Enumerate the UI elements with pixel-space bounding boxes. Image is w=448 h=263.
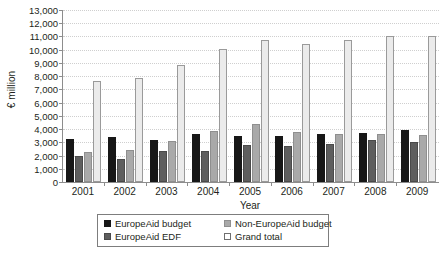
y-tick-mark [59,169,62,170]
y-tick-label: 3,000 [14,138,58,147]
legend-item[interactable]: EuropeAid EDF [104,231,222,242]
bar [326,144,334,182]
bar [293,132,301,182]
bar [201,151,209,182]
x-axis-tick-labels: 200120022003200420052006200720082009 [62,186,438,197]
y-tick-label: 6,000 [14,98,58,107]
bar [243,145,251,182]
bar [344,40,352,182]
y-tick-mark [59,89,62,90]
x-tick-label: 2004 [187,186,229,197]
y-tick-label: 7,000 [14,85,58,94]
bar [159,151,167,182]
bar [135,78,143,182]
bar [284,146,292,182]
y-tick-label: 5,000 [14,111,58,120]
bar-group [355,10,397,182]
x-tick-label: 2007 [313,186,355,197]
legend-label: EuropeAid EDF [115,231,181,242]
bar [359,133,367,182]
x-tick-label: 2002 [104,186,146,197]
bar [219,49,227,182]
legend-label: EuropeAid budget [115,218,191,229]
y-tick-label: 10,000 [14,45,58,54]
bar [317,134,325,182]
bar [410,142,418,182]
y-tick-label: 0 [14,178,58,187]
legend-item[interactable]: Non-EuropeAid budget [224,218,332,229]
y-tick-label: 1,000 [14,164,58,173]
bar [401,130,409,182]
y-tick-label: 4,000 [14,125,58,134]
y-tick-mark [59,156,62,157]
y-tick-mark [59,103,62,104]
y-tick-mark [59,23,62,24]
bar [428,36,436,182]
bar-group [63,10,105,182]
chart-legend: EuropeAid budgetNon-EuropeAid budgetEuro… [97,214,329,247]
bar [335,134,343,182]
bar-group [314,10,356,182]
bar [368,140,376,182]
legend-item[interactable]: Grand total [224,231,332,242]
y-tick-label: 13,000 [14,6,58,15]
bar [117,159,125,182]
bar-group [397,10,439,182]
legend-label: Non-EuropeAid budget [235,218,332,229]
y-tick-mark [59,129,62,130]
plot-area [62,10,439,183]
y-tick-label: 11,000 [14,32,58,41]
bar [177,65,185,182]
y-tick-mark [59,63,62,64]
figure: € million 13,00012,00011,00010,0009,0008… [0,0,448,263]
legend-swatch-icon [224,220,231,227]
y-tick-mark [59,182,62,183]
bar-chart: € million 13,00012,00011,00010,0009,0008… [0,0,448,196]
y-tick-label: 2,000 [14,151,58,160]
x-tick-label: 2005 [229,186,271,197]
bar [275,136,283,182]
x-tick-label: 2008 [354,186,396,197]
bar [150,140,158,182]
bar [93,81,101,182]
bar [192,134,200,182]
bar-group [147,10,189,182]
x-tick-label: 2003 [146,186,188,197]
bar [75,156,83,182]
bar-group [105,10,147,182]
bar [84,152,92,182]
bar [419,135,427,182]
bar [386,36,394,182]
legend-label: Grand total [235,231,282,242]
bar [261,40,269,182]
legend-swatch-icon [104,233,111,240]
bar-group [230,10,272,182]
bar-groups [63,10,439,182]
bar [66,139,74,182]
bar [234,136,242,182]
legend-swatch-icon [224,233,231,240]
y-tick-label: 12,000 [14,19,58,28]
y-tick-mark [59,36,62,37]
y-axis-tick-labels: 13,00012,00011,00010,0009,0008,0007,0006… [14,10,58,182]
y-tick-mark [59,10,62,11]
bar [377,134,385,182]
x-tick-label: 2009 [396,186,438,197]
x-tick-label: 2001 [62,186,104,197]
y-tick-label: 9,000 [14,58,58,67]
y-tick-mark [59,76,62,77]
legend-item[interactable]: EuropeAid budget [104,218,222,229]
bar [108,137,116,182]
y-tick-label: 8,000 [14,72,58,81]
y-tick-mark [59,116,62,117]
bar-group [188,10,230,182]
bar [302,44,310,182]
x-axis-label: Year [62,200,438,211]
x-tick-label: 2006 [271,186,313,197]
bar [168,141,176,182]
bar [210,131,218,182]
bar [126,150,134,182]
bar-group [272,10,314,182]
bar [252,124,260,182]
y-tick-mark [59,50,62,51]
